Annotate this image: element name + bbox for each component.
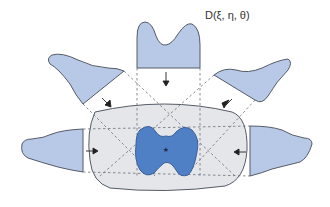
arrow-down-right-icon bbox=[105, 100, 111, 107]
projection-right bbox=[250, 126, 312, 176]
projection-upper-left bbox=[48, 54, 124, 104]
arrow-down-icon bbox=[163, 81, 169, 86]
projection-left bbox=[22, 129, 83, 172]
projection-diagram: ★ bbox=[0, 0, 330, 207]
center-marker-icon: ★ bbox=[163, 146, 169, 154]
distribution-label: D(ξ, η, θ) bbox=[205, 9, 250, 21]
arrow-down-left-icon bbox=[222, 100, 229, 108]
projection-top bbox=[137, 22, 200, 68]
projection-upper-right bbox=[214, 59, 291, 102]
